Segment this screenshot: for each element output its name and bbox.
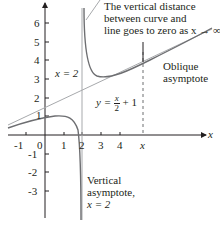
x-tick-label: 1 (61, 139, 67, 151)
vertical-note-line2: asymptote, (87, 186, 135, 198)
fraction-denominator: 2 (114, 104, 120, 113)
y-tick-label: 5 (34, 36, 40, 48)
vertical-note-line1: Vertical (87, 174, 121, 186)
vertical-note-line3: x = 2 (87, 198, 110, 210)
vertical-asymptote-label: x = 2 (55, 67, 78, 79)
x-axis-label: x (208, 128, 213, 140)
oblique-label-line2: asymptote (163, 72, 208, 84)
y-tick-label: 2 (34, 92, 40, 104)
y-tick-label: 4 (34, 54, 40, 66)
top-note-line1: The vertical distance (104, 0, 196, 12)
x-tick-label: -1 (14, 139, 23, 151)
x-tick-label: 4 (117, 139, 123, 151)
top-note-line3: line goes to zero as x → ∞ (104, 24, 220, 36)
y-tick-label: -1 (28, 148, 37, 160)
y-tick-label: 6 (34, 17, 40, 29)
x-tick-label: x (140, 139, 145, 151)
y-tick-label: 3 (34, 73, 40, 85)
x-tick-label: 3 (98, 139, 104, 151)
y-tick-label: -3 (28, 185, 37, 197)
equation-fraction: x 2 (114, 94, 120, 113)
x-tick-label: 0 (37, 139, 43, 151)
note-pointer-line (86, 0, 100, 20)
oblique-equation: y = x 2 + 1 (96, 94, 137, 113)
x-tick-label: 2 (79, 139, 85, 151)
equation-lhs: y = (96, 96, 111, 108)
equation-rhs: + 1 (123, 96, 137, 108)
oblique-label-line1: Oblique (163, 60, 198, 72)
y-tick-label: 1 (36, 109, 42, 121)
y-tick-label: -2 (28, 166, 37, 178)
top-note-line2: between curve and (104, 12, 186, 24)
